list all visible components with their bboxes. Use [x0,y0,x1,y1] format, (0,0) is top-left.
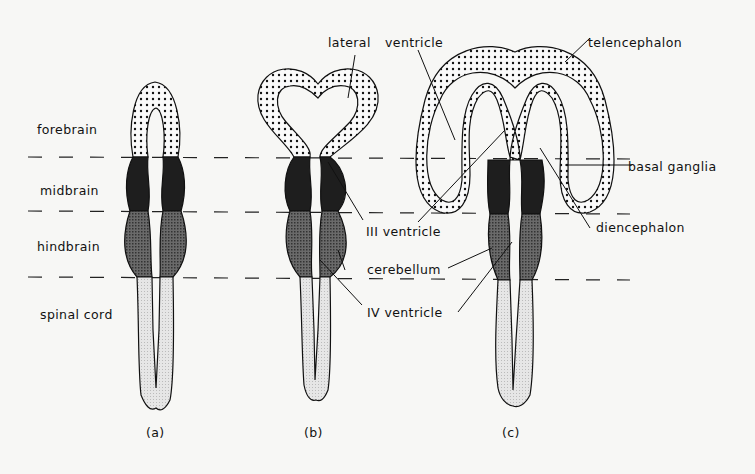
telencephalon-c [416,47,614,214]
label-diencephalon: diencephalon [596,220,685,235]
label-forebrain: forebrain [37,122,97,137]
hindbrain-c-left [488,214,510,280]
midbrain-b-left [285,157,311,211]
forebrain-b [258,69,378,157]
label-stage-c: (c) [502,425,520,440]
label-cerebellum: cerebellum [367,262,441,277]
label-ventricle: ventricle [385,35,443,50]
spinal-cord-b [300,277,331,401]
midbrain-a-left [126,157,149,211]
midbrain-a-right [162,157,185,211]
label-stage-a: (a) [146,425,165,440]
stage-c-neural-tube [416,47,614,407]
midbrain-c-left [488,160,511,214]
label-lateral: lateral [328,35,371,50]
brain-development-diagram: forebrain midbrain hindbrain spinal cord… [0,0,755,474]
label-hindbrain: hindbrain [37,239,100,254]
hindbrain-a-left [125,211,152,277]
forebrain-a [131,82,180,157]
label-spinal-cord: spinal cord [40,307,113,322]
label-fourth-ventricle: IV ventricle [367,305,443,320]
label-third-ventricle: III ventricle [366,224,441,239]
stage-a-neural-tube [125,82,187,410]
hindbrain-b-right [320,211,347,277]
hindbrain-a-right [160,211,186,277]
midbrain-c-right [520,160,544,214]
hindbrain-b-left [286,211,312,277]
label-midbrain: midbrain [40,183,99,198]
label-telencephalon: telencephalon [588,35,682,50]
label-basal-ganglia: basal ganglia [628,159,716,174]
label-stage-b: (b) [304,425,323,440]
hindbrain-c-right [520,214,542,280]
spinal-cord-c [496,280,534,407]
stage-b-neural-tube [258,69,378,401]
spinal-cord-a [137,277,174,410]
